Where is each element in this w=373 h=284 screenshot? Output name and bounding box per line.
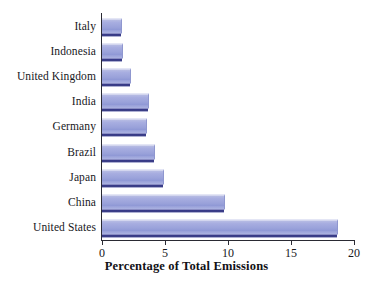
x-tick-label: 0 — [99, 246, 105, 260]
bar-rows: ItalyIndonesiaUnited KingdomIndiaGermany… — [0, 0, 373, 240]
x-tick-label: 10 — [222, 246, 234, 260]
bar-shadow — [102, 109, 148, 112]
bar-fill — [102, 18, 122, 33]
category-label: Brazil — [67, 145, 96, 158]
bar-row: United States — [0, 215, 373, 240]
bar-row: Germany — [0, 114, 373, 139]
category-label: United States — [33, 221, 96, 234]
x-tick-mark — [354, 240, 355, 245]
bar-fill — [102, 119, 147, 134]
category-label: Indonesia — [50, 44, 96, 57]
bar-shadow — [102, 58, 122, 61]
y-axis-line — [101, 13, 102, 241]
bar-shadow — [102, 134, 146, 137]
x-tick-label: 20 — [348, 246, 360, 260]
bar-shadow — [102, 33, 121, 36]
x-tick-mark — [291, 240, 292, 245]
bar-fill — [102, 220, 338, 235]
x-tick-label: 15 — [285, 246, 297, 260]
bar-shadow — [102, 184, 163, 187]
x-tick-mark — [228, 240, 229, 245]
x-tick-mark — [165, 240, 166, 245]
bar-fill — [102, 194, 225, 209]
x-tick-mark — [102, 240, 103, 245]
bar — [102, 220, 338, 235]
bar-row: China — [0, 189, 373, 214]
bar — [102, 18, 122, 33]
bar-shadow — [102, 235, 337, 238]
bar-shadow — [102, 209, 224, 212]
emissions-bar-chart: ItalyIndonesiaUnited KingdomIndiaGermany… — [0, 0, 373, 284]
category-label: India — [72, 95, 96, 108]
bar-row: Indonesia — [0, 38, 373, 63]
category-label: Italy — [74, 19, 96, 32]
bar-shadow — [102, 159, 154, 162]
bar-row: Brazil — [0, 139, 373, 164]
bar-fill — [102, 144, 155, 159]
category-label: Germany — [53, 120, 97, 133]
bar-fill — [102, 169, 164, 184]
bar — [102, 144, 155, 159]
bar — [102, 43, 123, 58]
bar-row: United Kingdom — [0, 63, 373, 88]
bar — [102, 194, 225, 209]
category-label: China — [68, 195, 96, 208]
bar — [102, 94, 149, 109]
bar — [102, 169, 164, 184]
bar — [102, 119, 147, 134]
category-label: Japan — [69, 170, 96, 183]
bar-shadow — [102, 83, 130, 86]
x-tick-label: 5 — [162, 246, 168, 260]
bar — [102, 68, 131, 83]
bar-fill — [102, 43, 123, 58]
bar-row: India — [0, 89, 373, 114]
category-label: United Kingdom — [17, 69, 96, 82]
bar-fill — [102, 68, 131, 83]
bar-row: Italy — [0, 13, 373, 38]
bar-fill — [102, 94, 149, 109]
bar-row: Japan — [0, 164, 373, 189]
x-axis-title: Percentage of Total Emissions — [0, 259, 373, 274]
